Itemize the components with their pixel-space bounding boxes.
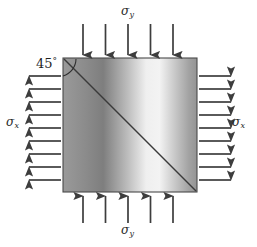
angle-value: 45	[36, 56, 53, 71]
sigma-subscript: x	[241, 121, 246, 130]
stress-element-square	[63, 58, 197, 192]
label-sigma-y-bottom: σy	[121, 224, 134, 238]
label-sigma-x-right: σx	[232, 116, 245, 130]
sigma-subscript: y	[130, 229, 135, 238]
label-sigma-y-top: σy	[121, 5, 134, 19]
label-angle-45-degrees: 45°	[36, 57, 57, 70]
bottom-arrow-group	[83, 196, 173, 223]
sigma-subscript: x	[15, 121, 20, 130]
label-sigma-x-left: σx	[6, 116, 19, 130]
sigma-glyph: σ	[121, 4, 129, 18]
degree-symbol: °	[53, 56, 58, 66]
figure-canvas	[0, 0, 257, 247]
stress-element-figure: σy σy σx σx 45°	[0, 0, 257, 247]
top-arrow-group	[83, 24, 173, 55]
sigma-glyph: σ	[232, 115, 240, 129]
sigma-glyph: σ	[6, 115, 14, 129]
right-arrow-group	[199, 76, 231, 180]
left-arrow-group	[29, 76, 61, 180]
sigma-subscript: y	[130, 10, 135, 19]
sigma-glyph: σ	[121, 223, 129, 237]
